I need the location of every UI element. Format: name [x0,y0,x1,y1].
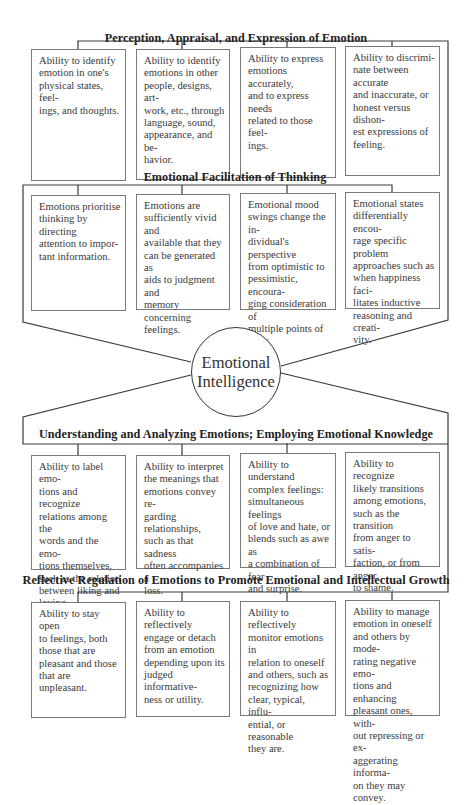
box-text: Ability to stay open to feelings, both t… [39,608,121,695]
ability-box-facilitation-2: Emotions are sufficiently vivid and avai… [136,194,230,310]
ability-box-regulation-3: Ability to reflectively monitor emotions… [240,601,336,716]
ability-box-understanding-3: Ability to understand complex feelings: … [240,453,336,568]
ability-box-perception-3: Ability to express emotions accurately, … [240,47,336,178]
box-text: Ability to identify emotions in other pe… [144,55,225,167]
section-title-regulation: Reflective Regulation of Emotions to Pro… [23,573,450,588]
ability-box-perception-4: Ability to discrimi- nate between accura… [345,46,440,176]
ability-box-perception-1: Ability to identify emotion in one's phy… [31,49,126,181]
ability-box-facilitation-4: Emotional states differentially encou- r… [345,192,440,309]
box-text: Ability to reflectively monitor emotions… [248,607,331,756]
box-text: Emotions are sufficiently vivid and avai… [144,200,225,336]
section-title-understanding: Understanding and Analyzing Emotions; Em… [39,427,433,442]
ability-box-facilitation-3: Emotional mood swings change the in- div… [240,193,336,310]
box-text: Ability to discrimi- nate between accura… [353,52,435,151]
section-title-facilitation: Emotional Facilitation of Thinking [144,170,327,185]
ability-box-understanding-1: Ability to label emo- tions and recogniz… [31,455,126,570]
box-text: Ability to express emotions accurately, … [248,53,331,152]
box-text: Emotions prioritise thinking by directin… [39,201,121,263]
ability-box-regulation-4: Ability to manage emotion in oneself and… [345,600,440,716]
ability-box-perception-2: Ability to identify emotions in other pe… [136,49,230,180]
ability-box-understanding-4: Ability to recognize likely transitions … [345,452,440,567]
center-label: Emotional Intelligence [197,353,275,391]
ability-box-understanding-2: Ability to interpret the meanings that e… [136,455,230,569]
box-text: Ability to identify emotion in one's phy… [39,55,121,117]
emotional-intelligence-node: Emotional Intelligence [191,327,281,417]
box-text: Ability to manage emotion in oneself and… [353,606,435,805]
box-text: Ability to reflectively engage or detach… [144,607,225,706]
section-title-perception: Perception, Appraisal, and Expression of… [105,31,367,46]
ability-box-regulation-1: Ability to stay open to feelings, both t… [31,602,126,718]
box-text: Emotional states differentially encou- r… [353,198,435,347]
ability-box-regulation-2: Ability to reflectively engage or detach… [136,601,230,717]
ability-box-facilitation-1: Emotions prioritise thinking by directin… [31,195,126,311]
box-text: Emotional mood swings change the in- div… [248,199,331,348]
